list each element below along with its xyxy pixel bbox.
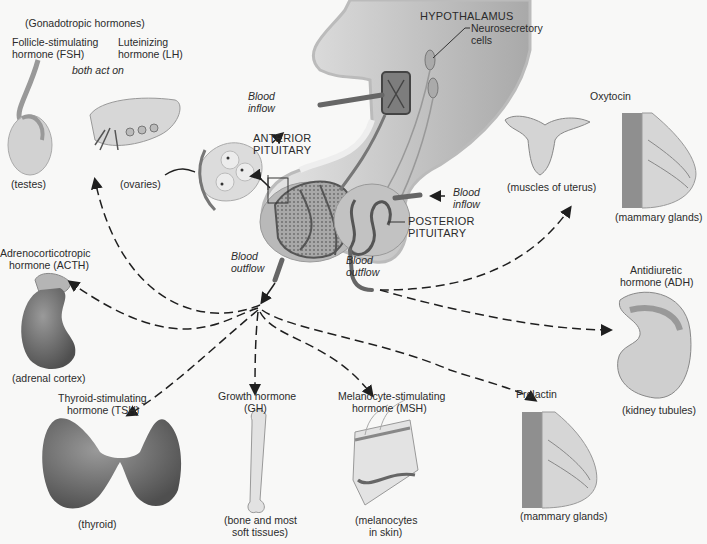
oxytocin-mammary-label: (mammary glands) bbox=[615, 211, 703, 224]
blood-outflow-right-2: outflow bbox=[346, 266, 379, 279]
both-act-on-note: both act on bbox=[72, 64, 124, 77]
adrenal-cortex-label: (adrenal cortex) bbox=[12, 372, 86, 385]
ovaries-label: (ovaries) bbox=[120, 178, 161, 191]
skin-illustration bbox=[353, 400, 418, 505]
thyroid-label: (thyroid) bbox=[78, 518, 117, 531]
testes-label: (testes) bbox=[11, 178, 46, 191]
uterus-illustration bbox=[505, 116, 590, 175]
kidney-illustration bbox=[618, 292, 691, 398]
testes-illustration bbox=[8, 60, 52, 175]
mammary-gland-illustration-top bbox=[622, 113, 696, 208]
anterior-pituitary-label-2: PITUITARY bbox=[253, 144, 311, 157]
blood-inflow-top-2: inflow bbox=[248, 102, 275, 115]
kidney-tubules-label: (kidney tubules) bbox=[622, 404, 696, 417]
adrenal-kidney-illustration bbox=[21, 273, 75, 369]
blood-inflow-right-2: inflow bbox=[453, 198, 480, 211]
acth-label-2: hormone (ACTH) bbox=[9, 259, 89, 272]
gh-target-label-2: soft tissues) bbox=[232, 526, 288, 539]
adh-label-2: hormone (ADH) bbox=[620, 276, 694, 289]
thyroid-illustration bbox=[42, 418, 181, 508]
oxytocin-label: Oxytocin bbox=[590, 90, 631, 103]
msh-label-2: hormone (MSH) bbox=[352, 402, 427, 415]
bone-illustration bbox=[248, 410, 266, 513]
mammary-gland-illustration-bottom bbox=[522, 412, 597, 508]
uterus-label: (muscles of uterus) bbox=[507, 181, 596, 194]
prolactin-label: Prolactin bbox=[516, 388, 557, 401]
gonadotropic-group-label: (Gonadotropic hormones) bbox=[25, 17, 145, 30]
blood-outflow-left-2: outflow bbox=[231, 262, 264, 275]
tsh-label-2: hormone (TSH) bbox=[67, 404, 139, 417]
prolactin-target-label: (mammary glands) bbox=[520, 510, 608, 523]
posterior-pituitary-label-2: PITUITARY bbox=[408, 227, 466, 240]
msh-target-label-2: in skin) bbox=[369, 526, 402, 539]
gh-label-2: (GH) bbox=[244, 402, 267, 415]
fsh-label-2: hormone (FSH) bbox=[12, 48, 84, 61]
lh-label-2: hormone (LH) bbox=[118, 48, 183, 61]
neurosecretory-label-2: cells bbox=[471, 34, 492, 47]
ovaries-illustration bbox=[90, 98, 180, 150]
